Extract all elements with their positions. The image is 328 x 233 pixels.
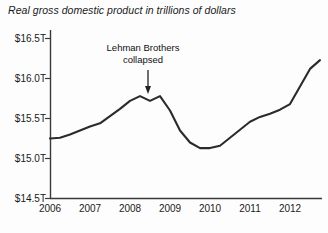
annotation-arrow-head: [145, 86, 151, 94]
y-axis-ticks: [45, 39, 51, 199]
chart-figure: Real gross domestic product in trillions…: [0, 0, 328, 233]
gdp-line-series: [50, 60, 320, 148]
plot-area: [0, 0, 328, 233]
annotation-arrow: [145, 70, 151, 94]
